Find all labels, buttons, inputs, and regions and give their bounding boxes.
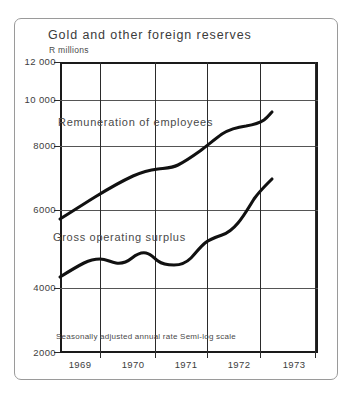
gridline-h-6000 — [60, 210, 318, 211]
gridline-v-3 — [207, 62, 208, 353]
plot-frame-left — [60, 62, 62, 353]
y-tick-label-12000: 12 000 — [10, 56, 56, 67]
x-tick-label-1970: 1970 — [113, 359, 153, 370]
plot-frame-bottom — [60, 351, 318, 353]
chart-subtitle-units: R millions — [49, 45, 89, 55]
y-tick-label-8000: 8000 — [10, 140, 56, 151]
x-tick-mark-2 — [155, 353, 156, 358]
gridline-v-1 — [100, 62, 101, 353]
gridline-v-2 — [155, 62, 156, 353]
chart-figure: Gold and other foreign reserves R millio… — [0, 0, 352, 399]
y-tick-label-6000: 6000 — [10, 204, 56, 215]
gridline-h-4000 — [60, 288, 318, 289]
x-tick-label-1971: 1971 — [166, 359, 206, 370]
chart-title: Gold and other foreign reserves — [48, 28, 252, 42]
chart-footnote: Seasonally adjusted annual rate Semi-log… — [56, 332, 236, 341]
x-tick-label-1972: 1972 — [219, 359, 259, 370]
gridline-h-8000 — [60, 146, 318, 147]
y-tick-label-2000: 2000 — [10, 347, 56, 358]
series-label-gross-operating-surplus: Gross operating surplus — [53, 231, 186, 243]
gridline-v-5 — [315, 62, 316, 353]
x-tick-mark-1 — [100, 353, 101, 358]
x-tick-label-1973: 1973 — [274, 359, 314, 370]
x-tick-mark-5 — [315, 353, 316, 358]
x-tick-label-1969: 1969 — [60, 359, 100, 370]
x-tick-mark-3 — [207, 353, 208, 358]
plot-frame-top — [60, 62, 318, 64]
y-tick-label-10000: 10 000 — [10, 94, 56, 105]
figure-page: Gold and other foreign reserves R millio… — [0, 0, 352, 399]
x-tick-mark-4 — [260, 353, 261, 358]
plot-frame-right — [316, 62, 318, 353]
gridline-v-4 — [260, 62, 261, 353]
plot-area — [60, 62, 318, 353]
series-label-remuneration: Remuneration of employees — [58, 116, 213, 128]
y-tick-label-4000: 4000 — [10, 282, 56, 293]
gridline-h-10000 — [60, 100, 318, 101]
